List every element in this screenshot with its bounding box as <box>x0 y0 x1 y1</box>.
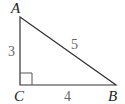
vertex-label-c: C <box>14 88 25 104</box>
side-label-ac: 3 <box>8 44 15 59</box>
side-label-cb: 4 <box>64 89 71 104</box>
right-angle-marker <box>20 73 32 85</box>
vertex-label-b: B <box>108 88 117 104</box>
side-label-ab: 5 <box>71 37 78 52</box>
triangle-abc <box>20 17 116 85</box>
triangle-diagram: A C B 3 4 5 <box>0 0 125 104</box>
vertex-label-a: A <box>10 0 21 16</box>
